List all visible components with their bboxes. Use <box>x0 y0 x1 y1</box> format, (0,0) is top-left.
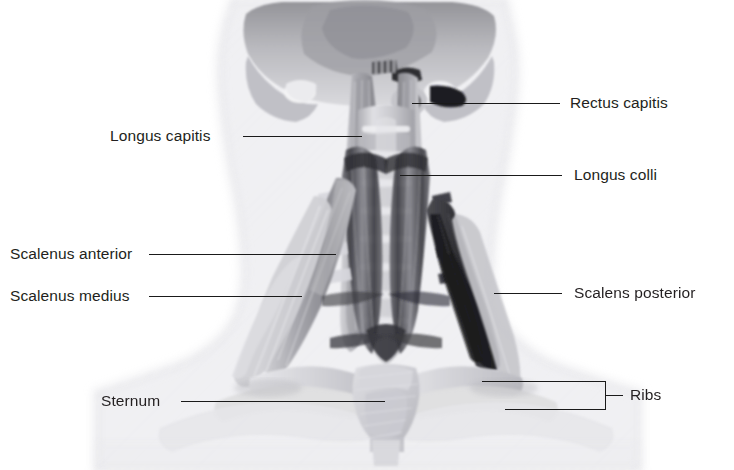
label-rectus-capitis: Rectus capitis <box>570 95 668 111</box>
label-sternum: Sternum <box>101 393 160 409</box>
label-scalens-posterior-text: Scalens posterior <box>574 284 695 301</box>
label-scalenus-medius-text: Scalenus medius <box>10 287 130 304</box>
leader-ribs-top <box>482 381 606 382</box>
label-longus-colli-text: Longus colli <box>574 166 657 183</box>
label-longus-capitis: Longus capitis <box>110 128 211 144</box>
label-ribs: Ribs <box>630 387 661 403</box>
label-scalenus-anterior-text: Scalenus anterior <box>10 245 132 262</box>
label-scalenus-medius: Scalenus medius <box>10 288 130 304</box>
label-scalens-posterior: Scalens posterior <box>574 285 695 301</box>
leader-scalenus-medius <box>149 296 302 297</box>
label-scalenus-anterior: Scalenus anterior <box>10 246 132 262</box>
leader-longus-colli <box>400 175 562 176</box>
leader-ribs-bottom <box>505 409 606 410</box>
leader-longus-capitis <box>243 136 362 137</box>
label-rectus-capitis-text: Rectus capitis <box>570 94 668 111</box>
label-sternum-text: Sternum <box>101 392 160 409</box>
leader-scalenus-anterior <box>149 254 336 255</box>
label-ribs-text: Ribs <box>630 386 661 403</box>
leader-ribs-tick <box>606 395 623 396</box>
label-longus-capitis-text: Longus capitis <box>110 127 211 144</box>
leader-sternum <box>181 401 385 402</box>
leader-scalens-posterior <box>494 293 562 294</box>
leader-rectus-capitis <box>412 103 560 104</box>
label-longus-colli: Longus colli <box>574 167 657 183</box>
anatomy-figure: Longus capitis Scalenus anterior Scalenu… <box>0 0 734 470</box>
